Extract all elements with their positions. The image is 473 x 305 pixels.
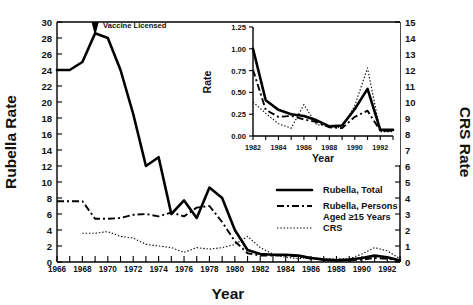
x-tick-label: 1966 — [48, 265, 67, 274]
inset-y-tick-label: 0.00 — [231, 132, 246, 141]
x-tick-label: 1976 — [175, 265, 194, 274]
inset-y-tick-label: 1.00 — [231, 45, 246, 54]
y-left-tick-label: 20 — [41, 97, 52, 108]
legend: Rubella, Total Rubella, Persons Aged ≥15… — [277, 185, 398, 233]
y-left-tick-label: 6 — [47, 209, 52, 220]
figure-container: 024681012141618202224262830 012345678910… — [0, 0, 473, 305]
x-tick-label: 1988 — [327, 265, 346, 274]
legend-label-crs: CRS — [323, 223, 342, 233]
x-tick-label: 1974 — [150, 265, 169, 274]
inset-y-tick-label: 1.25 — [231, 23, 247, 32]
y-right-tick-label: 10 — [405, 97, 416, 108]
x-tick-label: 1970 — [99, 265, 118, 274]
x-tick-label: 1990 — [353, 265, 372, 274]
x-tick-label: 1972 — [124, 265, 143, 274]
y-right-tick-label: 2 — [405, 225, 410, 236]
y-left-tick-label: 18 — [41, 113, 52, 124]
y-right-tick-label: 1 — [405, 241, 411, 252]
y-right-tick-label: 12 — [405, 65, 416, 76]
inset-x-tick-label: 1982 — [245, 143, 261, 152]
y-right-tick-label: 8 — [405, 129, 410, 140]
y-left-tick-label: 16 — [41, 129, 52, 140]
y-left-tick-label: 26 — [41, 49, 52, 60]
legend-label-rubella-15plus-line2: Aged ≥15 Years — [323, 212, 391, 222]
y-right-tick-label: 3 — [405, 209, 410, 220]
y-left-tick-label: 4 — [47, 225, 53, 236]
y-right-tick-label: 9 — [405, 113, 410, 124]
x-tick-label: 1992 — [378, 265, 397, 274]
inset-y-tick-label: 0.25 — [231, 110, 247, 119]
y-left-tick-label: 10 — [41, 177, 52, 188]
chart-svg: 024681012141618202224262830 012345678910… — [0, 0, 473, 305]
series-line-dotted — [82, 232, 400, 259]
x-tick-label: 1968 — [73, 265, 92, 274]
y-right-tick-label: 14 — [405, 33, 416, 44]
y-right-tick-label: 13 — [405, 49, 416, 60]
y-left-tick-label: 22 — [41, 81, 52, 92]
inset-x-tick-label: 1986 — [296, 143, 312, 152]
y-left-tick-label: 30 — [41, 17, 52, 28]
y-right-tick-label: 4 — [405, 193, 411, 204]
y-right-tick-label: 5 — [405, 177, 411, 188]
y-left-ticks: 024681012141618202224262830 — [41, 17, 62, 268]
x-axis-label: Year — [212, 285, 245, 302]
annotation-label: Vaccine Licensed — [103, 21, 167, 30]
y-left-axis-label: Rubella Rate — [2, 95, 19, 189]
x-tick-label: 1986 — [302, 265, 321, 274]
y-right-tick-label: 11 — [405, 81, 416, 92]
inset-x-axis-label: Year — [312, 152, 334, 164]
legend-label-rubella-15plus: Rubella, Persons — [323, 201, 398, 211]
y-right-tick-label: 7 — [405, 145, 410, 156]
vaccine-licensed-annotation: Vaccine Licensed — [92, 21, 167, 36]
x-tick-label: 1980 — [226, 265, 245, 274]
y-left-tick-label: 24 — [41, 65, 52, 76]
inset-x-tick-label: 1984 — [270, 143, 286, 152]
y-right-axis-label: CRS Rate — [457, 107, 473, 178]
inset-x-tick-label: 1988 — [321, 143, 337, 152]
y-left-tick-label: 8 — [47, 193, 52, 204]
inset-y-tick-label: 0.50 — [231, 88, 246, 97]
inset-y-tick-label: 0.75 — [231, 67, 247, 76]
y-left-tick-label: 2 — [47, 241, 52, 252]
x-tick-label: 1984 — [277, 265, 296, 274]
y-left-tick-label: 12 — [41, 161, 52, 172]
inset-x-tick-label: 1990 — [347, 143, 363, 152]
inset-x-tick-label: 1992 — [372, 143, 388, 152]
x-tick-label: 1982 — [251, 265, 270, 274]
inset-chart: 0.000.250.500.751.001.25 198219841986198… — [196, 23, 400, 165]
y-right-tick-label: 15 — [405, 17, 416, 28]
legend-label-rubella-total: Rubella, Total — [323, 185, 383, 195]
y-left-tick-label: 14 — [41, 145, 52, 156]
y-right-tick-label: 6 — [405, 161, 410, 172]
y-left-tick-label: 28 — [41, 33, 52, 44]
x-tick-label: 1978 — [200, 265, 219, 274]
inset-y-axis-label: Rate — [201, 70, 213, 93]
y-right-tick-label: 0 — [405, 257, 410, 268]
